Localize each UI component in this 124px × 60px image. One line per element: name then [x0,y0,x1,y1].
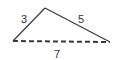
side-left-label: 3 [21,13,27,25]
side-right-label: 5 [78,13,84,25]
side-base-dashed [13,41,110,42]
side-base-label: 7 [54,48,60,60]
side-left [13,8,45,41]
triangle-diagram: 3 5 7 [0,0,124,60]
